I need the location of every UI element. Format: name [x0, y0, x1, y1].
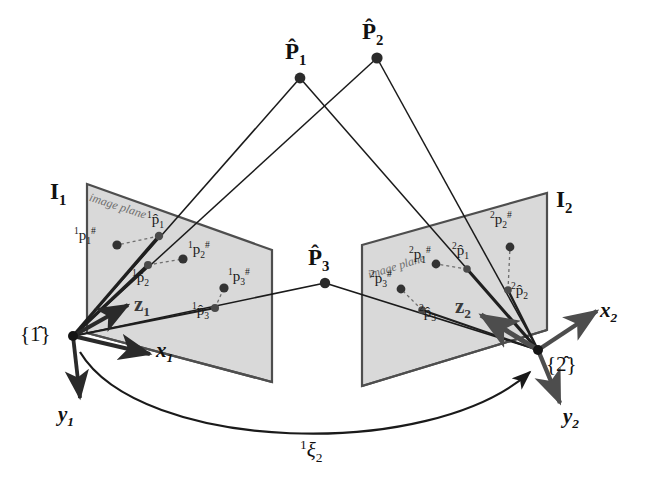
p2-hat-cam2-sub: 2 — [523, 290, 528, 301]
p2-hash-cam2-post: # — [507, 209, 512, 220]
p3-hash-cam2-sub: 3 — [382, 278, 387, 289]
axis-z1-letter: z — [134, 292, 143, 316]
image-point-label-p1-hash-cam2: 2p1# — [409, 247, 431, 262]
p1-hat-cam1-sub: 1 — [159, 219, 164, 230]
axis-y1-sub: 1 — [67, 414, 74, 429]
p1-hash-cam2-post: # — [426, 244, 431, 255]
image-plane-1-label: I1 — [50, 180, 66, 203]
image-point-dot-p2-hash-cam2 — [506, 243, 515, 252]
world-point-dot-P1 — [295, 73, 306, 84]
p2-hash-cam1-sub: 2 — [200, 249, 205, 260]
axis-x1-sub: 1 — [167, 350, 174, 365]
image-point-label-p2-hat-cam2: 2p̂2 — [511, 283, 528, 298]
image-point-dot-p3-hash-cam1 — [219, 283, 228, 292]
world-point-label-P2: P̂2 — [362, 20, 383, 43]
relative-pose-symbol: ξ — [307, 438, 316, 462]
image-point-label-p3-hash-cam2: 2p3# — [370, 271, 392, 286]
image-point-dot-p2-hash-cam1 — [178, 254, 187, 263]
axis-label-z1: z1 — [134, 294, 150, 315]
axis-label-y1: y1 — [58, 404, 74, 425]
axis-x2-letter: x — [600, 298, 611, 322]
world-point-label-P3: P̂3 — [308, 246, 329, 269]
frame-1-origin-dot — [68, 331, 78, 341]
relative-pose-sub: 2 — [316, 450, 323, 465]
p2-hash-cam2-sub: 2 — [502, 219, 507, 230]
p1-hash-cam1-post: # — [91, 225, 96, 236]
image-point-label-p1-hat-cam2: 2p̂1 — [452, 243, 469, 258]
axis-y1 — [73, 336, 80, 398]
image-plane-1-letter: I — [50, 179, 59, 204]
axis-x2-sub: 2 — [611, 310, 618, 325]
image-point-dot-p3-hat-cam1 — [211, 304, 219, 312]
p1-hash-cam1-sub: 1 — [86, 235, 91, 246]
image-point-dot-p1-hash-cam1 — [112, 240, 121, 249]
p3-hat-cam2-sub: 3 — [431, 312, 436, 323]
world-point-P2-sub: 2 — [376, 32, 383, 48]
frame-1-label: {1̂} — [20, 324, 51, 345]
axis-y1-letter: y — [58, 402, 67, 426]
axis-x1-letter: x — [156, 338, 167, 362]
image-point-label-p2-hash-cam1: 1p2# — [188, 242, 210, 257]
world-point-P1-sub: 1 — [299, 52, 306, 68]
image-point-dot-p3-hash-cam2 — [397, 285, 406, 294]
frame-2-origin-dot — [533, 345, 543, 355]
image-point-dot-p1-hash-cam2 — [432, 260, 441, 269]
axis-label-z2: z2 — [455, 296, 471, 317]
relative-pose-label: 1ξ2 — [300, 440, 322, 461]
image-plane-2-label: I2 — [556, 188, 572, 211]
image-point-label-p2-hash-cam2: 2p2# — [490, 212, 512, 227]
world-point-P2-hat: P̂ — [362, 19, 376, 44]
p3-hat-cam1-sub: 3 — [204, 310, 209, 321]
world-point-P1-hat: P̂ — [285, 39, 299, 64]
stereo-geometry-figure: P̂1 P̂2 P̂3 I1 I2 image plane image plan… — [0, 0, 651, 492]
image-plane-2-sub: 2 — [565, 200, 572, 216]
axis-z1-sub: 1 — [143, 304, 150, 319]
world-point-P3-sub: 3 — [322, 258, 329, 274]
axis-label-x2: x2 — [600, 300, 617, 321]
image-point-label-p3-hat-cam1: 1p̂3 — [192, 303, 209, 318]
image-plane-2-letter: I — [556, 187, 565, 212]
image-plane-1-sub: 1 — [59, 192, 66, 208]
p2-hat-cam1-sub: 2 — [144, 277, 149, 288]
p2-hash-cam1-post: # — [205, 239, 210, 250]
axis-label-y2: y2 — [563, 406, 579, 427]
axis-z2-letter: z — [455, 294, 464, 318]
world-point-label-P1: P̂1 — [285, 40, 306, 63]
p3-hash-cam1-sub: 3 — [240, 276, 245, 287]
axis-y2-letter: y — [563, 404, 572, 428]
image-point-label-p1-hash-cam1: 1p1# — [74, 228, 96, 243]
world-point-dot-P2 — [371, 52, 382, 63]
relative-pose-presup: 1 — [300, 437, 307, 452]
p3-hash-cam1-post: # — [245, 266, 250, 277]
world-point-P3-hat: P̂ — [308, 245, 322, 270]
image-point-label-p1-hat-cam1: 1p̂1 — [147, 212, 164, 227]
image-point-label-p3-hash-cam1: 1p3# — [228, 269, 250, 284]
p1-hash-cam2-sub: 1 — [421, 254, 426, 265]
frame-2-label: {2̂} — [546, 354, 577, 375]
p3-hash-cam2-post: # — [387, 268, 392, 279]
image-point-dot-p2-hat-cam1 — [144, 261, 152, 269]
world-point-dot-P3 — [320, 278, 330, 288]
image-point-label-p3-hat-cam2: 2p̂3 — [419, 305, 436, 320]
image-point-dot-p1-hat-cam2 — [463, 265, 471, 273]
axis-label-x1: x1 — [156, 340, 173, 361]
p1-hat-cam2-sub: 1 — [464, 250, 469, 261]
relative-pose-arc — [80, 352, 530, 434]
image-point-dot-p1-hat-cam1 — [155, 232, 163, 240]
axis-z2-sub: 2 — [464, 306, 471, 321]
image-point-label-p2-hat-cam1: 1p̂2 — [132, 270, 149, 285]
axis-y2-sub: 2 — [572, 416, 579, 431]
